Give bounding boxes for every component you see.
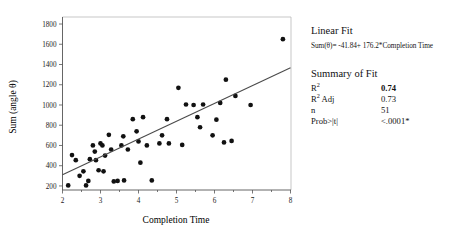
data-point [281,37,286,42]
fit-stat-value: <.0001* [381,115,409,126]
data-point [134,129,139,134]
data-point [81,169,86,174]
scatter-plot-figure: 20040060080010001200140016001800 2345678… [0,0,300,237]
fit-stat-label: Prob>|t| [311,115,381,126]
x-tick-label: 7 [251,197,255,205]
data-point [229,139,234,144]
y-tick-label: 1400 [42,61,57,69]
y-tick-label: 1800 [42,21,57,29]
y-tick-label: 800 [46,122,57,130]
fit-stat-row: n51 [311,105,409,116]
summary-of-fit-heading: Summary of Fit [311,67,469,80]
fit-stat-row: R20.74 [311,83,409,94]
y-tick-label: 400 [46,162,57,170]
fit-stat-value: 0.73 [381,94,409,105]
plot-canvas: 20040060080010001200140016001800 2345678… [0,0,300,237]
fit-stat-value: 0.74 [381,83,409,94]
summary-of-fit-table: R20.74R2 Adj0.73n51Prob>|t|<.0001* [311,83,409,126]
plot-frame [63,17,292,190]
x-tick-label: 3 [99,197,103,205]
data-point [91,143,96,148]
x-tick-label: 8 [289,197,293,205]
data-point [160,133,165,138]
data-point [66,183,71,188]
y-axis-title: Sum (angle θ) [8,80,19,134]
data-point [77,173,82,178]
data-point [101,169,106,174]
data-point [96,168,101,173]
data-point [191,103,196,108]
y-tick-label: 1200 [42,81,57,89]
x-tick-label: 4 [137,197,141,205]
data-point [84,183,89,188]
fit-stat-label: R2 [311,83,381,94]
y-tick-label: 200 [46,183,57,191]
data-point [214,117,219,122]
linear-fit-line [63,68,291,175]
data-point [121,134,126,139]
data-point [195,115,200,120]
data-point [180,143,185,148]
data-point [92,149,97,154]
data-point [248,103,253,108]
y-tick-label: 1600 [42,41,57,49]
data-point [149,178,154,183]
data-point [201,102,206,107]
data-point [138,160,143,165]
linear-fit-heading: Linear Fit [311,24,469,37]
fit-stat-value: 51 [381,105,409,116]
y-tick-label: 1000 [42,102,57,110]
data-point [176,85,181,90]
data-point [167,141,172,146]
x-tick-label: 2 [61,197,65,205]
fit-equation: Sum(θ)= -41.84+ 176.2*Completion Time [311,41,469,50]
fit-stat-row: R2 Adj0.73 [311,94,409,105]
figure-root: 20040060080010001200140016001800 2345678… [0,0,472,237]
data-point [126,147,131,152]
data-point [73,158,78,163]
fit-stat-row: Prob>|t|<.0001* [311,115,409,126]
data-point [224,77,229,82]
fit-stat-label: n [311,105,381,116]
data-point [100,143,105,148]
data-point [145,143,150,148]
x-axis-ticks: 2345678 [61,190,293,205]
data-point [107,132,112,137]
data-point [184,102,189,107]
data-point [86,179,91,184]
data-point [210,133,215,138]
stats-panel: Linear Fit Sum(θ)= -41.84+ 176.2*Complet… [311,24,469,126]
data-points-group [66,37,285,188]
data-point [141,115,146,120]
x-tick-label: 5 [175,197,179,205]
fit-stat-label: R2 Adj [311,94,381,105]
data-point [130,117,135,122]
x-axis-title: Completion Time [143,215,210,225]
data-point [165,117,170,122]
data-point [222,140,227,145]
data-point [198,125,203,130]
data-point [157,141,162,146]
x-tick-label: 6 [213,197,217,205]
data-point [122,178,127,183]
y-tick-label: 600 [46,142,57,150]
data-point [70,153,75,158]
data-point [115,179,120,184]
y-axis-ticks: 20040060080010001200140016001800 [42,21,62,191]
